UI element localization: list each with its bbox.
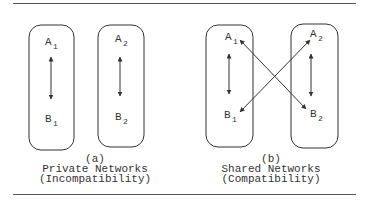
svg-text:2: 2 bbox=[123, 117, 128, 126]
node-b2-label: B bbox=[310, 108, 317, 120]
node-b1-label: B bbox=[45, 113, 52, 125]
panel-a-box-1: A 1 B 1 bbox=[29, 25, 74, 150]
svg-text:2: 2 bbox=[123, 39, 128, 48]
node-a2-label: A bbox=[115, 33, 122, 45]
cross-arrow-a1-b2 bbox=[240, 40, 306, 109]
node-a1-label: A bbox=[45, 36, 52, 48]
caption-a: (a) Private Networks (Incompatibility) bbox=[20, 154, 170, 184]
svg-text:2: 2 bbox=[318, 34, 323, 43]
panel-a-box-2: A 2 B 2 bbox=[98, 25, 144, 147]
svg-text:1: 1 bbox=[53, 119, 58, 128]
svg-text:1: 1 bbox=[53, 42, 58, 51]
node-b2-label: B bbox=[115, 111, 122, 123]
panel-b-box-1: A 1 B 1 bbox=[206, 25, 253, 147]
svg-text:2: 2 bbox=[318, 114, 323, 123]
node-a1-label: A bbox=[225, 31, 232, 43]
node-a2-label: A bbox=[310, 28, 317, 40]
caption-b: (b) Shared Networks (Compatibility) bbox=[196, 154, 346, 184]
svg-text:1: 1 bbox=[233, 37, 238, 46]
panel-b-box-2: A 2 B 2 bbox=[291, 24, 338, 148]
caption-b-subtitle: (Compatibility) bbox=[196, 174, 346, 184]
svg-text:1: 1 bbox=[232, 115, 237, 124]
caption-a-subtitle: (Incompatibility) bbox=[20, 174, 170, 184]
node-b1-label: B bbox=[224, 109, 231, 121]
